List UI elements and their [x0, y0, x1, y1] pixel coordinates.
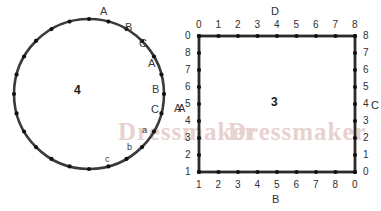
square-tick-right-1: 7	[363, 48, 369, 58]
square-tick-left-5: 4	[185, 116, 191, 126]
square-tick-bottom-1: 2	[216, 180, 222, 190]
square-tick-right-2: 6	[363, 65, 369, 75]
square-dot	[255, 34, 259, 38]
square-dot	[333, 170, 337, 174]
square-dot	[353, 153, 357, 157]
square-dot	[294, 34, 298, 38]
square-tick-right-3: 5	[363, 82, 369, 92]
square-dot	[353, 136, 357, 140]
square-tick-right-0: 8	[363, 31, 369, 41]
square-edge-label-right: C	[371, 100, 379, 111]
square-tick-left-7: 2	[185, 150, 191, 160]
square-tick-top-1: 1	[216, 20, 222, 30]
circle-label-b-2: B	[152, 84, 159, 95]
square-tick-top-8: 8	[352, 20, 358, 30]
square-edge-label-top: D	[271, 6, 279, 17]
square-edge-label-bottom: B	[272, 194, 279, 205]
circle-label-b-lower: b	[127, 143, 132, 152]
square-dot	[314, 170, 318, 174]
square-dot	[353, 34, 357, 38]
square-dot	[275, 34, 279, 38]
square-tick-left-6: 3	[185, 133, 191, 143]
square-dot	[197, 51, 201, 55]
square-dot	[353, 170, 357, 174]
square-dot	[353, 51, 357, 55]
square-tick-bottom-4: 5	[274, 180, 280, 190]
square-dot	[353, 119, 357, 123]
square-dot	[255, 170, 259, 174]
square-dot	[314, 34, 318, 38]
square-tick-left-1: 8	[185, 48, 191, 58]
square-tick-left-2: 7	[185, 65, 191, 75]
square-tick-right-6: 2	[363, 133, 369, 143]
square-tick-right-8: 0	[363, 167, 369, 177]
square-tick-top-4: 4	[274, 20, 280, 30]
square-dot	[197, 85, 201, 89]
square-tick-top-7: 7	[333, 20, 339, 30]
square-tick-bottom-3: 4	[255, 180, 261, 190]
circle-label-c-lower: c	[105, 155, 110, 164]
square-tick-bottom-0: 1	[196, 180, 202, 190]
square-tick-left-4: 5	[185, 99, 191, 109]
square-dot	[197, 102, 201, 106]
square-tick-top-2: 2	[235, 20, 241, 30]
circle-label-b-1: B	[125, 22, 132, 33]
square-dot	[353, 102, 357, 106]
circle-label-a-1: A	[100, 6, 107, 17]
square-dot	[236, 170, 240, 174]
square-tick-bottom-5: 6	[294, 180, 300, 190]
square-tick-right-7: 1	[363, 150, 369, 160]
square-tick-right-5: 3	[363, 116, 369, 126]
square-dot	[197, 170, 201, 174]
square-tick-left-0: 0	[185, 31, 191, 41]
square-dot	[275, 170, 279, 174]
circle-label-c-1: C	[139, 38, 147, 49]
square-dot	[197, 119, 201, 123]
square-tick-top-6: 6	[313, 20, 319, 30]
square-tick-bottom-6: 7	[313, 180, 319, 190]
square-tick-right-4: 4	[363, 99, 369, 109]
diagram-canvas: Dressmaker Dressmaker 4 A B C A B C a b …	[0, 0, 381, 211]
square-dot	[197, 68, 201, 72]
square-tick-top-5: 5	[294, 20, 300, 30]
square-dot	[353, 68, 357, 72]
square-center-number: 3	[271, 96, 278, 108]
square-dot	[236, 34, 240, 38]
circle-label-a-lower: a	[142, 126, 147, 135]
square-tick-top-0: 0	[196, 20, 202, 30]
square-tick-left-8: 1	[185, 167, 191, 177]
circle-label-c-2: C	[151, 104, 159, 115]
square-tick-left-3: 6	[185, 82, 191, 92]
circle-center-number: 4	[74, 84, 81, 96]
square-dot	[353, 85, 357, 89]
square-dot	[333, 34, 337, 38]
square-tick-bottom-7: 8	[333, 180, 339, 190]
square-dot	[197, 34, 201, 38]
square-dot	[216, 170, 220, 174]
square-dot	[197, 153, 201, 157]
square-tick-bottom-8: 0	[352, 180, 358, 190]
circle-label-a-2: A	[148, 58, 155, 69]
square-dot	[216, 34, 220, 38]
square-tick-top-3: 3	[255, 20, 261, 30]
square-dot	[197, 136, 201, 140]
square-tick-bottom-2: 3	[235, 180, 241, 190]
square-dot	[294, 170, 298, 174]
